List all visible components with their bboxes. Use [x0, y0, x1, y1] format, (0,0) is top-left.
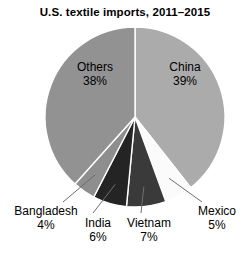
pie-slice-group — [45, 27, 225, 207]
slice-label-mexico: Mexico 5% — [190, 204, 244, 232]
slice-label-china-percent: 39% — [150, 74, 220, 88]
slice-label-india-percent: 6% — [76, 230, 120, 244]
slice-label-mexico-percent: 5% — [190, 218, 244, 232]
slice-label-others-percent: 38% — [60, 74, 130, 88]
slice-label-others: Others 38% — [60, 60, 130, 88]
slice-label-india-name: India — [76, 216, 120, 230]
slice-label-vietnam-percent: 7% — [118, 230, 180, 244]
slice-label-vietnam: Vietnam 7% — [118, 216, 180, 244]
slice-label-others-name: Others — [60, 60, 130, 74]
slice-label-india: India 6% — [76, 216, 120, 244]
slice-label-vietnam-name: Vietnam — [118, 216, 180, 230]
slice-label-china-name: China — [150, 60, 220, 74]
slice-label-mexico-name: Mexico — [190, 204, 244, 218]
pie-chart-figure: U.S. textile imports, 2011–2015 Others 3… — [0, 0, 250, 261]
slice-label-china: China 39% — [150, 60, 220, 88]
